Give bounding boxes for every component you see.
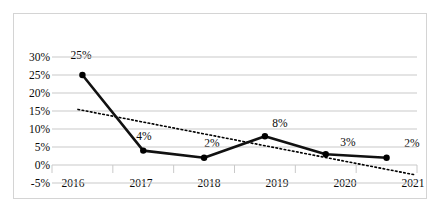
data-marker-2019: [262, 133, 268, 139]
main-line-series: [82, 75, 386, 158]
data-marker-2017: [140, 147, 146, 153]
chart-container: 30% 25% 20% 15% 10% 5% 0% -5% 2016 2017 …: [0, 0, 439, 218]
data-marker-2016: [79, 72, 85, 78]
axis-lines: [52, 165, 417, 183]
plot-area: [0, 0, 439, 218]
data-marker-2020: [323, 151, 329, 157]
data-marker-2018: [201, 155, 207, 161]
data-marker-2021: [383, 155, 389, 161]
gridlines: [52, 57, 417, 165]
